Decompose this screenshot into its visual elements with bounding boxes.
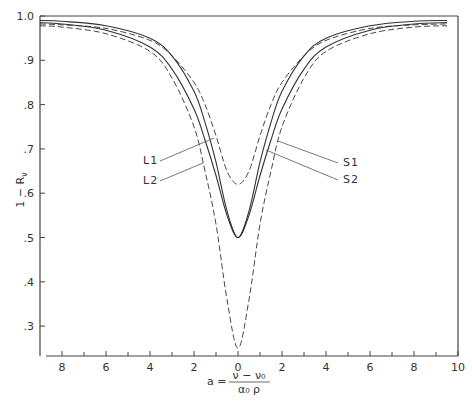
x-tick-label: 8 <box>411 361 418 374</box>
x-axis-label-denominator: α₀ ρ <box>238 383 260 396</box>
y-tick-label: .8 <box>24 99 35 112</box>
x-tick-label: 4 <box>147 361 154 374</box>
x-tick-label: 10 <box>451 361 465 374</box>
leader-lines <box>160 138 338 181</box>
curves <box>40 20 447 348</box>
curve-S2 <box>40 24 447 184</box>
label-S1: S1 <box>343 156 359 169</box>
x-tick-label: 6 <box>103 361 110 374</box>
label-L1: L1 <box>143 154 158 167</box>
y-ticks: 1.0.9.8.7.6.5.4.3 <box>17 10 46 333</box>
x-axis-label-numerator: ν − ν₀ <box>233 369 266 382</box>
leader-L1 <box>160 138 214 161</box>
label-S2: S2 <box>343 173 359 186</box>
x-axis-label-lhs: a = <box>207 375 226 388</box>
x-tick-label: 8 <box>59 361 66 374</box>
leader-S1 <box>278 141 338 163</box>
x-tick-label: 2 <box>191 361 198 374</box>
x-axis-label: a = ν − ν₀ α₀ ρ <box>207 369 270 396</box>
y-tick-label: .5 <box>24 232 35 245</box>
y-axis-label-text: 1 − R <box>14 176 27 207</box>
leader-L2 <box>160 163 203 181</box>
chart-canvas: 1.0.9.8.7.6.5.4.3 86420246810 L1 L2 S1 S… <box>0 0 472 411</box>
x-tick-label: 4 <box>323 361 330 374</box>
curve-L2 <box>40 26 447 349</box>
y-tick-label: .4 <box>24 276 35 289</box>
y-tick-label: .3 <box>24 320 35 333</box>
leader-S2 <box>266 150 338 180</box>
curve-L1 <box>40 23 447 238</box>
x-tick-label: 2 <box>279 361 286 374</box>
y-tick-label: .7 <box>24 143 35 156</box>
svg-text:1 − Rν: 1 − Rν <box>14 172 29 208</box>
y-axis-label: 1 − Rν <box>14 172 29 208</box>
y-tick-label: .9 <box>24 54 35 67</box>
y-axis-label-subscript: ν <box>20 172 29 177</box>
curve-S1 <box>40 20 447 237</box>
y-tick-label: 1.0 <box>17 10 35 23</box>
label-L2: L2 <box>143 174 158 187</box>
plot-frame <box>40 16 458 356</box>
x-tick-label: 6 <box>367 361 374 374</box>
